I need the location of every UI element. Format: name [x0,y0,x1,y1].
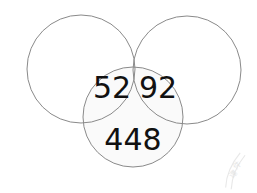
label-bottom-and-top-right: 92 [139,70,177,105]
label-bottom-and-top-left: 52 [93,70,131,105]
label-bottom-only: 448 [104,122,161,157]
venn-diagram-figure: 52 92 448 [0,0,257,193]
venn-diagram-canvas: 52 92 448 课 件 [0,0,257,193]
